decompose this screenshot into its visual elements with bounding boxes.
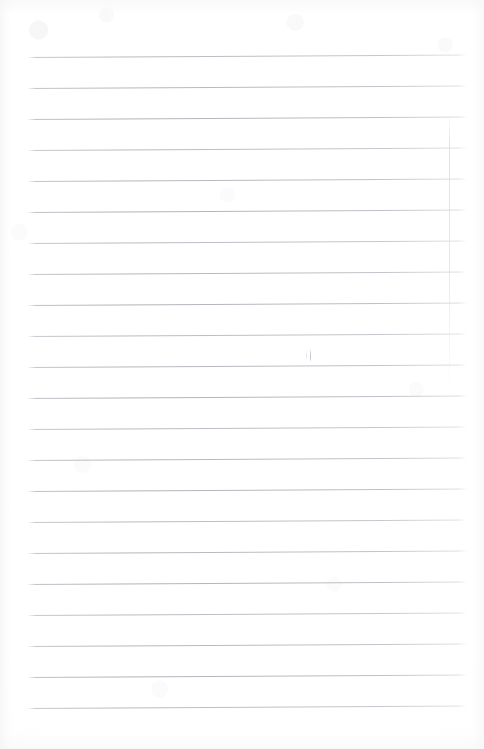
notebook-page (0, 0, 484, 749)
scan-edge-shade-right (472, 0, 484, 749)
scan-edge-shade-top (0, 0, 484, 14)
writing-area[interactable] (27, 40, 467, 720)
scan-edge-shade-left (0, 0, 10, 749)
scan-edge-shade-bottom (0, 733, 484, 749)
